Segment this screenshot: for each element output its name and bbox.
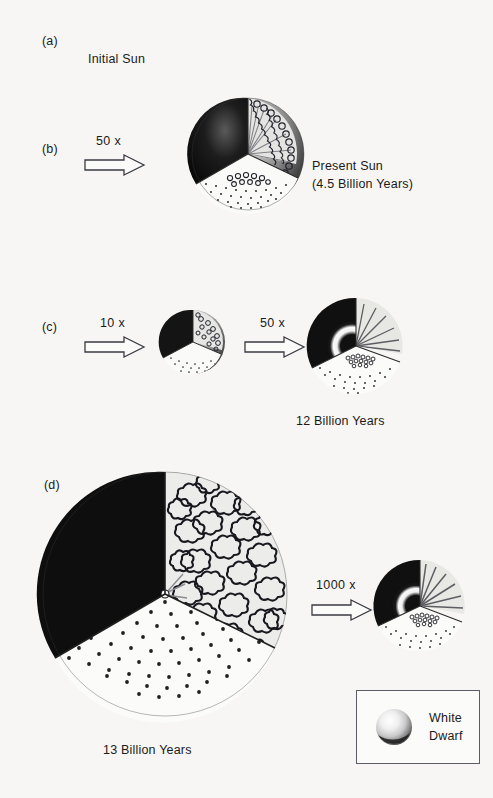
magnification-label-d: 1000 x <box>316 578 356 594</box>
arrow-b-50x <box>84 153 146 177</box>
caption-thirteen-billion: 13 Billion Years <box>103 743 192 759</box>
subgiant-cutaway-small <box>157 306 229 378</box>
panel-label-a: (a) <box>42 34 58 50</box>
legend-label-line1: White <box>429 711 462 727</box>
white-dwarf-sphere-icon <box>371 705 417 751</box>
panel-label-d: (d) <box>44 478 60 494</box>
caption-present-sun-age: (4.5 Billion Years) <box>312 177 413 193</box>
caption-present-sun: Present Sun <box>312 159 383 175</box>
arrow-c-50x <box>244 335 306 359</box>
red-giant-cutaway <box>33 462 297 726</box>
present-sun-cutaway <box>186 92 314 222</box>
legend-box: White Dwarf <box>356 690 480 764</box>
white-dwarf-core-cutaway <box>372 558 468 658</box>
panel-label-b: (b) <box>42 142 58 158</box>
magnification-label-c2: 50 x <box>260 316 285 332</box>
legend-label-line2: Dwarf <box>429 729 463 745</box>
caption-initial-sun: Initial Sun <box>88 52 145 68</box>
magnification-label-b: 50 x <box>96 134 121 150</box>
arrow-d-1000x <box>311 598 373 622</box>
caption-twelve-billion: 12 Billion Years <box>296 414 385 430</box>
twelve-billion-cutaway <box>306 296 406 400</box>
panel-label-c: (c) <box>42 320 57 336</box>
magnification-label-c1: 10 x <box>100 316 125 332</box>
arrow-c-10x <box>84 335 146 359</box>
figure-canvas: (a) Initial Sun (b) 50 x <box>0 0 493 798</box>
